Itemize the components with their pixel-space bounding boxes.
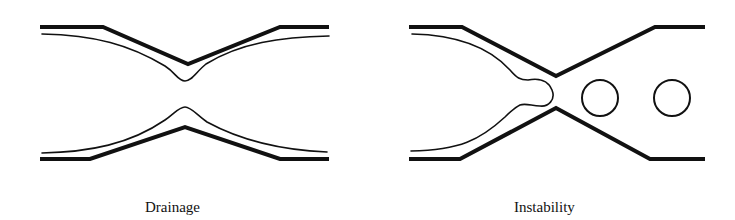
bubble: [654, 80, 690, 116]
liquid-film-bottom: [42, 107, 327, 153]
channel-wall-top: [40, 27, 329, 64]
diagram-canvas: [0, 0, 735, 220]
channel-wall-bottom: [40, 127, 329, 159]
liquid-film-top: [42, 34, 329, 81]
caption-instability: Instability: [514, 199, 575, 216]
channel-wall-bottom: [409, 108, 705, 159]
instability-panel: [409, 27, 705, 159]
bubble: [582, 80, 618, 116]
caption-drainage: Drainage: [145, 199, 200, 216]
liquid-film-collar: [411, 34, 553, 151]
channel-wall-top: [409, 27, 705, 76]
drainage-panel: [40, 27, 329, 159]
